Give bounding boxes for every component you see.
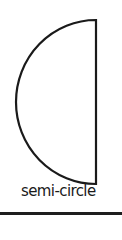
bottom-divider — [0, 212, 122, 215]
semi-circle-outline — [16, 20, 96, 184]
shape-label: semi-circle — [21, 182, 96, 200]
